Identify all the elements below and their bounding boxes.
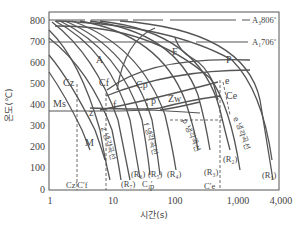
label-p-bottom: p [150,181,154,191]
x-axis-ticks: 1 10 100 1,000 4,000 [48,195,293,206]
y-axis-ticks: 800 700 600 500 400 300 200 100 0 [30,15,45,195]
region-label-a: A [96,54,104,65]
cooling-curve [60,21,150,175]
point-label-e: e [225,75,230,86]
x-axis-label: 시간(s) [140,210,168,220]
x-tick: 100 [168,195,183,206]
x-tick: 10 [108,195,118,206]
point-label-cz: Cz [63,77,75,88]
y-tick: 0 [40,184,45,195]
label-cz-prime-cf-prime: Cz′C′f [66,180,88,190]
region-label-m: M [85,137,94,148]
label-r2: (R₂) [223,154,237,164]
x-tick: 1,000 [227,195,250,206]
y-tick: 200 [30,141,45,152]
label-r6: (R₆) [131,169,145,179]
y-tick: 500 [30,78,45,89]
point-label-z: z [89,107,94,118]
point-label-p: p [151,95,156,106]
point-label-cp: Cp [136,79,148,90]
cooling-curve-r6 [55,21,140,178]
cct-diagram: 800 700 600 500 400 300 200 100 0 1 10 1… [0,0,301,228]
label-r4: (R₄) [167,169,181,179]
point-label-cf: Cf [99,77,110,88]
y-tick: 700 [30,36,45,47]
y-tick: 800 [30,15,45,26]
cooling-curves [49,21,273,180]
e-cooling-curve-label: e 냉각곡선 [231,115,253,151]
y-tick: 600 [30,57,45,68]
ms-label: Ms [53,98,66,109]
y-tick: 100 [30,162,45,173]
y-tick: 400 [30,99,45,110]
region-label-zw: Zw [168,93,182,104]
f-cooling-curve-label: f 냉각곡선 [141,122,161,157]
a3-label: A₃806˚ [252,15,277,25]
region-label-p: P [226,54,232,65]
region-label-f: F [172,46,178,57]
ferrite-boundary-curve [55,26,240,170]
y-tick: 300 [30,120,45,131]
label-r7: (R₇) [121,179,135,189]
label-r5: (R₅) [148,169,162,179]
label-c-prime-e: C′e [204,181,216,191]
label-r3: (R₃) [204,167,218,177]
y-axis-label: 온도(℃) [4,88,14,121]
x-tick: 4,000 [270,195,293,206]
label-r1: (R₁) [262,170,276,180]
a1-label: A₁706˚ [252,37,277,47]
x-tick: 1 [48,195,53,206]
point-label-ce: Ce [226,90,238,101]
